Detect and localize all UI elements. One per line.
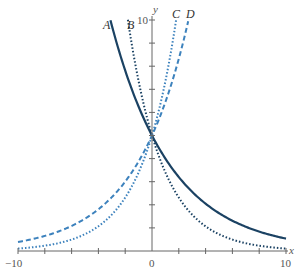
x-tick-label-min: −10 xyxy=(5,257,23,269)
curve-label-c: C xyxy=(172,7,181,21)
exponential-chart: −10 0 10 10 x y A B C D xyxy=(0,0,296,274)
curve-label-b: B xyxy=(127,18,135,32)
y-tick-label-max: 10 xyxy=(137,14,149,26)
curve-a xyxy=(110,20,286,238)
x-axis-label: x xyxy=(288,244,294,256)
curve-label-a: A xyxy=(102,18,111,32)
y-axis-label: y xyxy=(152,3,158,15)
curve-d xyxy=(18,21,188,242)
curve-label-d: D xyxy=(185,7,195,21)
x-tick-label-max: 10 xyxy=(280,257,292,269)
x-tick-label-zero: 0 xyxy=(149,257,155,269)
